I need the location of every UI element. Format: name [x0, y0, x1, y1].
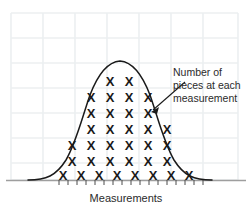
x-mark: X — [163, 122, 172, 137]
x-mark: X — [106, 74, 115, 89]
x-mark: X — [59, 168, 68, 183]
x-mark: X — [106, 122, 115, 137]
x-mark: X — [95, 168, 104, 183]
x-mark: X — [87, 154, 96, 169]
x-mark: X — [144, 122, 153, 137]
x-mark: X — [144, 138, 153, 153]
x-mark: X — [87, 106, 96, 121]
mark-row-6: X X X X — [87, 90, 153, 105]
x-axis-label: Measurements — [90, 192, 163, 204]
x-mark: X — [68, 154, 77, 169]
annotation-line-1: Number of — [173, 66, 222, 78]
x-mark: X — [106, 90, 115, 105]
x-mark: X — [125, 138, 134, 153]
x-mark: X — [149, 168, 158, 183]
x-mark: X — [125, 74, 134, 89]
x-mark: X — [144, 154, 153, 169]
x-mark: X — [144, 90, 153, 105]
mark-row-5: X X X X — [87, 106, 153, 121]
x-mark: X — [185, 168, 194, 183]
x-mark: X — [77, 168, 86, 183]
x-mark: X — [163, 154, 172, 169]
figure-container: X X X X X X X X X X X X X X X X X — [0, 0, 252, 207]
annotation-line-2: pieces at each — [173, 79, 241, 91]
x-mark: X — [113, 168, 122, 183]
mark-row-2: X X X X X X — [68, 154, 172, 169]
x-mark: X — [106, 154, 115, 169]
annotation-line-3: measurement — [173, 92, 237, 104]
x-mark: X — [163, 138, 172, 153]
x-mark: X — [87, 90, 96, 105]
x-mark: X — [125, 106, 134, 121]
x-mark: X — [87, 122, 96, 137]
x-mark: X — [106, 106, 115, 121]
x-mark: X — [167, 168, 176, 183]
x-mark: X — [125, 90, 134, 105]
x-mark: X — [144, 106, 153, 121]
x-mark: X — [125, 122, 134, 137]
x-mark: X — [87, 138, 96, 153]
x-mark: X — [131, 168, 140, 183]
x-mark: X — [106, 138, 115, 153]
x-mark: X — [68, 138, 77, 153]
mark-row-7: X X — [106, 74, 134, 89]
annotation-text: Number of pieces at each measurement — [173, 66, 241, 104]
x-mark: X — [125, 154, 134, 169]
mark-row-3: X X X X X X — [68, 138, 172, 153]
distribution-chart: X X X X X X X X X X X X X X X X X — [0, 0, 252, 207]
